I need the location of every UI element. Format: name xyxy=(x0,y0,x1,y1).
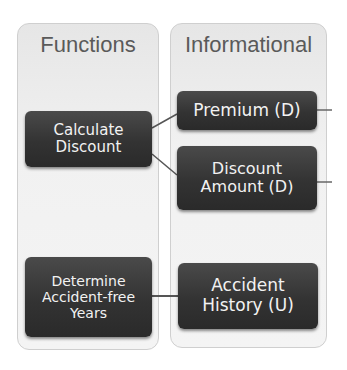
connector-calc-discount-amount xyxy=(152,154,177,175)
node-determine-accident-free-years-label: Determine Accident-free Years xyxy=(42,273,135,321)
node-discount-amount-label: Discount Amount (D) xyxy=(201,160,294,197)
node-accident-history-label: Accident History (U) xyxy=(202,276,294,315)
connector-calc-premium xyxy=(152,114,177,128)
node-determine-accident-free-years[interactable]: Determine Accident-free Years xyxy=(25,257,152,337)
node-accident-history[interactable]: Accident History (U) xyxy=(178,263,318,329)
node-premium-label: Premium (D) xyxy=(193,101,300,121)
node-calculate-discount[interactable]: Calculate Discount xyxy=(25,111,152,167)
node-calculate-discount-label: Calculate Discount xyxy=(53,122,123,157)
node-discount-amount[interactable]: Discount Amount (D) xyxy=(177,146,317,210)
node-premium[interactable]: Premium (D) xyxy=(177,91,317,130)
